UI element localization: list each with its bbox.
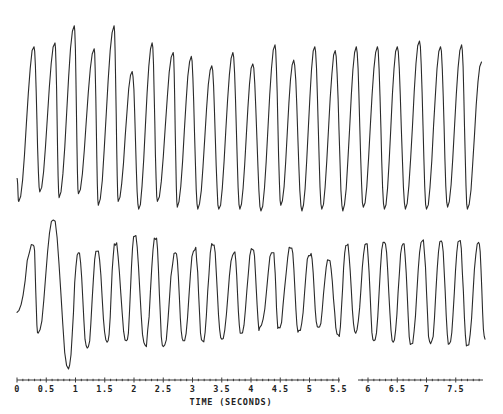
x-tick-label: 4.5 bbox=[272, 384, 289, 394]
x-tick-label: 5 bbox=[307, 384, 313, 394]
x-tick-label: 2 bbox=[131, 384, 137, 394]
x-tick-label: 7 bbox=[424, 384, 430, 394]
x-tick-label: 6.5 bbox=[389, 384, 406, 394]
x-axis-label: TIME (SECONDS) bbox=[190, 397, 273, 407]
x-axis: 00.511.522.533.544.555.566.577.5 bbox=[14, 378, 483, 395]
x-tick-label: 3 bbox=[190, 384, 196, 394]
top-trace-line bbox=[17, 26, 482, 211]
x-tick-label: 4 bbox=[248, 384, 254, 394]
chart: 00.511.522.533.544.555.566.577.5 TIME (S… bbox=[0, 0, 503, 414]
x-tick-label: 7.5 bbox=[447, 384, 464, 394]
x-tick-label: 6 bbox=[365, 384, 371, 394]
x-tick-label: 5.5 bbox=[330, 384, 347, 394]
x-tick-label: 0 bbox=[14, 384, 20, 394]
x-tick-label: 3.5 bbox=[213, 384, 230, 394]
x-tick-label: 1 bbox=[73, 384, 79, 394]
x-tick-label: 0.5 bbox=[38, 384, 55, 394]
x-tick-label: 2.5 bbox=[155, 384, 172, 394]
x-tick-label: 1.5 bbox=[96, 384, 113, 394]
bottom-trace-line bbox=[17, 220, 485, 369]
